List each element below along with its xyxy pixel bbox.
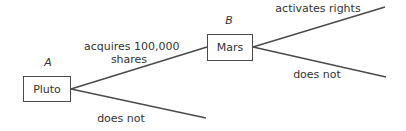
edge-label-acquires: acquires 100,000 shares	[84, 40, 174, 66]
edge-label-mars-does-not: does not	[292, 68, 342, 81]
node-pluto: Pluto	[23, 76, 71, 102]
player-label-b: B	[219, 14, 239, 27]
node-pluto-label: Pluto	[33, 83, 61, 96]
node-mars-label: Mars	[217, 41, 244, 54]
edge-label-acquires-line1: acquires 100,000	[84, 40, 174, 53]
decision-tree-diagram: A Pluto B Mars acquires 100,000 shares d…	[0, 0, 406, 131]
edge-label-acquires-line2: shares	[84, 53, 174, 66]
node-mars: Mars	[207, 34, 253, 61]
edge-label-activates-rights: activates rights	[273, 2, 363, 15]
player-label-a: A	[38, 56, 58, 69]
tree-edges	[0, 0, 406, 131]
edge-label-pluto-does-not: does not	[96, 112, 146, 125]
